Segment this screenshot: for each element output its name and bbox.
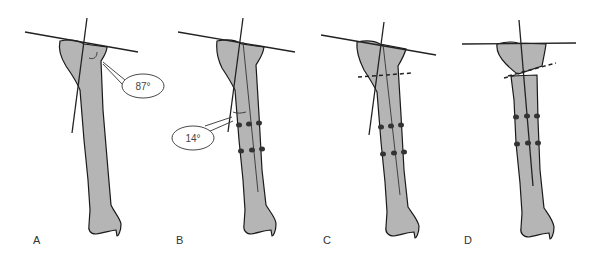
callout-pointer-a (103, 62, 125, 84)
panel-label-a: A (33, 234, 41, 246)
panel-label-b: B (176, 234, 183, 246)
panel-a: 87° A (25, 18, 164, 246)
panel-label-d: D (464, 234, 472, 246)
angle-value-a: 87° (135, 81, 150, 92)
figure-canvas: 87° A 14° B (0, 0, 597, 257)
bone-d-distal (511, 75, 554, 239)
angle-value-b: 14° (185, 133, 200, 144)
panel-d: D (462, 20, 576, 246)
panel-b: 14° B (172, 18, 295, 246)
bone-c (357, 41, 419, 238)
panel-c: C (321, 22, 436, 246)
joint-line-d (462, 43, 576, 44)
panel-label-c: C (323, 234, 331, 246)
bone-b (217, 40, 276, 236)
